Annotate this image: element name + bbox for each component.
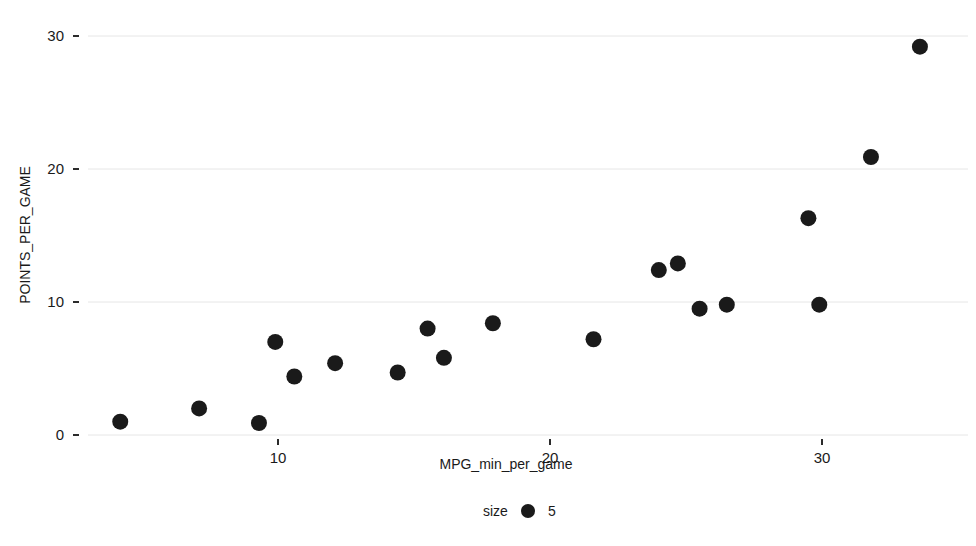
- data-point[interactable]: [912, 39, 928, 55]
- y-axis-tick-label: 10: [47, 293, 64, 310]
- x-axis-tick-label: 10: [270, 449, 287, 466]
- y-axis-title: POINTS_PER_GAME: [17, 166, 33, 304]
- data-point[interactable]: [267, 334, 283, 350]
- legend-entry-label: 5: [548, 503, 556, 519]
- data-point[interactable]: [586, 331, 602, 347]
- chart-canvas: 0102030 102030 MPG_min_per_game POINTS_P…: [0, 0, 976, 546]
- legend-title: size: [483, 503, 508, 519]
- data-point[interactable]: [485, 315, 501, 331]
- y-axis-tick-label: 30: [47, 27, 64, 44]
- data-point[interactable]: [251, 415, 267, 431]
- gridlines-group: [88, 36, 968, 435]
- data-point[interactable]: [800, 210, 816, 226]
- data-point[interactable]: [651, 262, 667, 278]
- plot-area: 0102030 102030 MPG_min_per_game POINTS_P…: [0, 0, 976, 546]
- data-point[interactable]: [811, 297, 827, 313]
- x-axis-tick-label: 30: [814, 449, 831, 466]
- y-axis-ticks-group: 0102030: [47, 27, 79, 443]
- data-point[interactable]: [863, 149, 879, 165]
- y-axis-tick-label: 0: [56, 426, 64, 443]
- data-point[interactable]: [286, 368, 302, 384]
- data-point[interactable]: [719, 297, 735, 313]
- data-point[interactable]: [327, 355, 343, 371]
- data-points-group: [112, 39, 928, 431]
- data-point[interactable]: [670, 255, 686, 271]
- scatter-chart: 0102030 102030 MPG_min_per_game POINTS_P…: [0, 0, 976, 546]
- data-point[interactable]: [112, 414, 128, 430]
- x-axis-title: MPG_min_per_game: [439, 456, 572, 472]
- data-point[interactable]: [420, 321, 436, 337]
- legend-marker-circle-icon: [521, 504, 535, 518]
- data-point[interactable]: [390, 364, 406, 380]
- data-point[interactable]: [692, 301, 708, 317]
- y-axis-tick-label: 20: [47, 160, 64, 177]
- data-point[interactable]: [436, 350, 452, 366]
- data-point[interactable]: [191, 400, 207, 416]
- legend: size 5: [483, 503, 556, 519]
